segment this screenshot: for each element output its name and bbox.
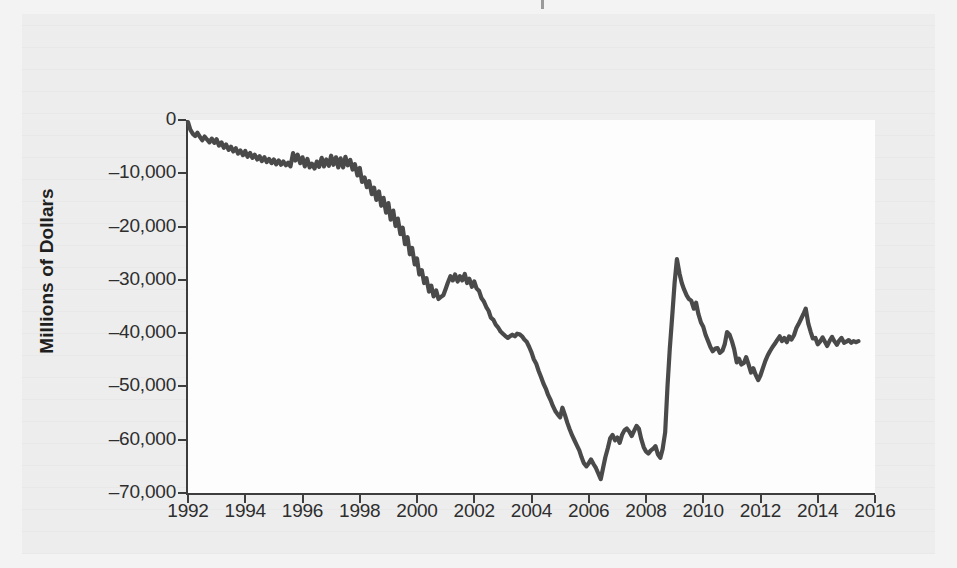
- data-series-layer: [0, 0, 957, 568]
- trade-balance-line: [188, 122, 858, 479]
- trade-balance-chart: 0–10,000–20,000–30,000–40,000–50,000–60,…: [0, 0, 957, 568]
